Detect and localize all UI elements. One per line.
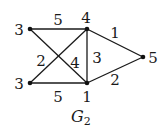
caption-letter: G (71, 107, 84, 126)
node-right (141, 55, 146, 60)
edge-weight-label: 5 (53, 88, 63, 106)
labels: 542531234315 (14, 9, 158, 106)
edge-weight-label: 2 (36, 52, 46, 70)
edge-weight-label: 5 (53, 11, 63, 29)
node-bottom-left (28, 81, 33, 86)
caption-subscript: 2 (84, 115, 91, 126)
edge-weight-label: 1 (110, 24, 120, 42)
edges (30, 29, 143, 83)
edge-weight-label: 4 (70, 54, 80, 72)
node-top-left (28, 27, 33, 32)
node-label-top-left: 3 (14, 21, 24, 39)
node-label-bottom-middle: 1 (82, 88, 92, 106)
node-label-top-middle: 4 (81, 9, 91, 27)
node-label-bottom-left: 3 (14, 75, 24, 93)
graph-diagram: 542531234315 G2 (0, 0, 164, 126)
node-bottom-middle (85, 81, 90, 86)
edge-weight-label: 2 (110, 71, 120, 89)
edge-weight-label: 3 (92, 49, 102, 67)
graph-caption: G2 (71, 107, 91, 126)
node-label-right: 5 (148, 49, 158, 67)
node-top-middle (85, 27, 90, 32)
